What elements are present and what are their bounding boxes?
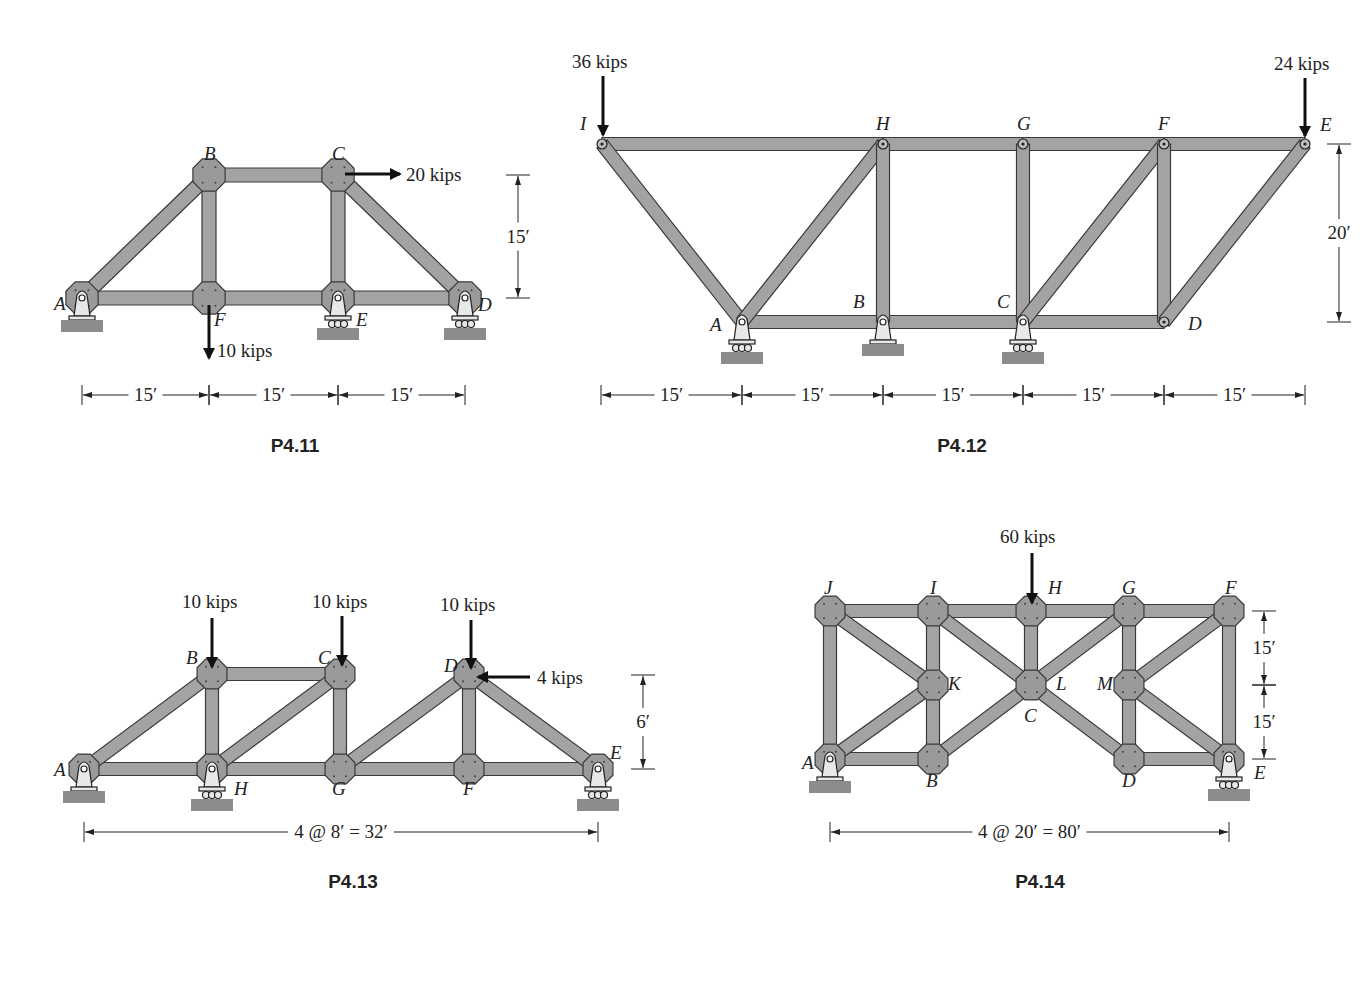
rivet bbox=[470, 289, 472, 291]
rivet bbox=[343, 289, 345, 291]
dimension-15′: 15′ bbox=[1252, 685, 1276, 759]
node-label-I: I bbox=[929, 577, 938, 598]
rivet bbox=[343, 182, 345, 184]
rivet bbox=[1222, 617, 1224, 619]
rivet bbox=[333, 761, 335, 763]
node-label-C: C bbox=[997, 291, 1010, 312]
rivet bbox=[938, 677, 940, 679]
node-label-F: F bbox=[1224, 577, 1237, 598]
ground-hatch bbox=[577, 799, 619, 811]
rivet bbox=[823, 751, 825, 753]
ground-hatch bbox=[862, 344, 904, 356]
rivet bbox=[474, 666, 476, 668]
rivet bbox=[1024, 677, 1026, 679]
rivet bbox=[214, 166, 216, 168]
gusset-plates bbox=[815, 596, 1244, 774]
rivet bbox=[835, 617, 837, 619]
svg-text:15′: 15′ bbox=[506, 226, 529, 247]
rivet bbox=[1134, 691, 1136, 693]
load-arrows: 36 kips24 kips bbox=[572, 51, 1329, 136]
rivet bbox=[926, 765, 928, 767]
rivet bbox=[474, 775, 476, 777]
gusset-L bbox=[1016, 670, 1046, 700]
rivet bbox=[462, 761, 464, 763]
rivet bbox=[462, 666, 464, 668]
gusset-D bbox=[454, 659, 484, 689]
svg-text:15′: 15′ bbox=[134, 384, 157, 405]
member-AB bbox=[77, 170, 214, 303]
rivet bbox=[1036, 677, 1038, 679]
dimension-15′: 15′ bbox=[209, 384, 338, 405]
member-GF bbox=[1023, 138, 1164, 151]
rivet bbox=[345, 666, 347, 668]
ground-hatch bbox=[721, 352, 763, 364]
svg-text:6′: 6′ bbox=[636, 711, 650, 732]
load-label: 10 kips bbox=[312, 591, 367, 612]
dimension-6′: 6′ bbox=[631, 675, 655, 769]
rivet bbox=[1122, 691, 1124, 693]
node-label-F: F bbox=[1157, 113, 1170, 134]
ground-hatch bbox=[1002, 352, 1044, 364]
node-label-G: G bbox=[1122, 577, 1136, 598]
rivet bbox=[1122, 603, 1124, 605]
load-label: 36 kips bbox=[572, 51, 627, 72]
rivet bbox=[205, 680, 207, 682]
node-label-K: K bbox=[947, 673, 962, 694]
rivet bbox=[214, 182, 216, 184]
node-label-D: D bbox=[1121, 770, 1136, 791]
svg-text:15′: 15′ bbox=[1252, 711, 1275, 732]
ground-hatch bbox=[444, 328, 486, 340]
dimension-15′: 15′ bbox=[506, 175, 530, 298]
pin-center bbox=[1162, 320, 1165, 323]
gusset-J bbox=[815, 596, 845, 626]
pin-center bbox=[881, 142, 884, 145]
gusset-K bbox=[918, 670, 948, 700]
svg-text:15′: 15′ bbox=[801, 384, 824, 405]
rivet bbox=[462, 775, 464, 777]
node-label-A: A bbox=[52, 759, 66, 780]
member-CD bbox=[333, 170, 470, 303]
rivet bbox=[823, 617, 825, 619]
load-20-kips: 20 kips bbox=[345, 164, 461, 185]
node-label-A: A bbox=[708, 314, 722, 335]
node-label-A: A bbox=[800, 752, 814, 773]
node-label-E: E bbox=[609, 742, 622, 763]
node-label-D: D bbox=[443, 655, 458, 676]
ground-hatch bbox=[1208, 789, 1250, 801]
figure-caption: P4.12 bbox=[937, 435, 987, 456]
rivet bbox=[1122, 765, 1124, 767]
rivet bbox=[591, 761, 593, 763]
figure-caption: P4.13 bbox=[328, 871, 378, 892]
rivet bbox=[202, 289, 204, 291]
member-GD bbox=[336, 669, 473, 774]
dimension-4 @ 8′ = 32′: 4 @ 8′ = 32′ bbox=[84, 821, 598, 842]
svg-text:4 @ 20′ = 80′: 4 @ 20′ = 80′ bbox=[978, 821, 1081, 842]
node-label-B: B bbox=[926, 770, 938, 791]
truss-members bbox=[597, 138, 1310, 329]
svg-text:15′: 15′ bbox=[660, 384, 683, 405]
rivet bbox=[1036, 603, 1038, 605]
ground-hatch bbox=[61, 320, 103, 332]
rivet bbox=[217, 680, 219, 682]
node-label-C: C bbox=[318, 647, 331, 668]
member-CF bbox=[1018, 140, 1169, 326]
member-FE bbox=[209, 291, 338, 305]
member-BC bbox=[212, 668, 340, 681]
rivet bbox=[823, 603, 825, 605]
node-label-E: E bbox=[1319, 114, 1332, 135]
rivet bbox=[1024, 603, 1026, 605]
rivet bbox=[835, 751, 837, 753]
rivet bbox=[835, 603, 837, 605]
member-IA bbox=[597, 140, 747, 326]
rivet bbox=[343, 166, 345, 168]
rivet bbox=[938, 751, 940, 753]
rivet bbox=[1134, 751, 1136, 753]
node-label-H: H bbox=[875, 113, 891, 134]
figure-caption: P4.11 bbox=[271, 435, 320, 456]
rivet bbox=[333, 680, 335, 682]
dimension-4 @ 20′ = 80′: 4 @ 20′ = 80′ bbox=[830, 821, 1229, 842]
load-label: 10 kips bbox=[182, 591, 237, 612]
node-label-C: C bbox=[332, 143, 345, 164]
load-label: 4 kips bbox=[537, 667, 583, 688]
rivet bbox=[331, 166, 333, 168]
